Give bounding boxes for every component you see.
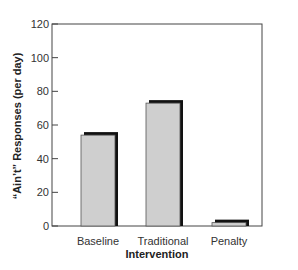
y-axis-title: “Ain’t” Responses (per day) — [11, 52, 23, 199]
y-tick-label: 120 — [31, 18, 49, 30]
y-tick-label: 60 — [37, 119, 49, 131]
y-tick-label: 40 — [37, 153, 49, 165]
x-category-label: Penalty — [211, 235, 248, 247]
y-tick-label: 20 — [37, 186, 49, 198]
x-category-label: Baseline — [77, 235, 119, 247]
bar-penalty — [212, 223, 246, 226]
x-axis-title: Intervention — [126, 248, 189, 260]
y-tick-label: 100 — [31, 52, 49, 64]
x-category-label: Traditional — [138, 235, 189, 247]
y-tick-label: 0 — [43, 220, 49, 232]
bar-chart: 020406080100120 BaselineTraditionalPenal… — [0, 0, 298, 270]
bar-baseline — [81, 135, 115, 226]
y-tick-label: 80 — [37, 85, 49, 97]
bar-traditional — [146, 103, 180, 226]
